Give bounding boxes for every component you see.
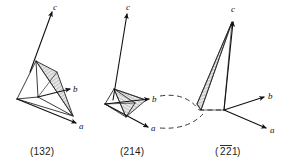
connector-dashed-b — [160, 95, 199, 110]
axis-label-b-221bar: b — [268, 91, 273, 101]
intercept-plane-221bar — [197, 22, 232, 110]
axis-c-214 — [113, 14, 127, 100]
panel-214: c b a (214) — [105, 2, 157, 157]
caption-221bar: ( 2 2 1 ) — [215, 146, 241, 158]
cell-edge-221bar-a — [197, 22, 232, 104]
axis-b-221bar — [224, 97, 264, 110]
axis-label-c-132: c — [53, 2, 57, 12]
caption-214: (214) — [120, 146, 144, 157]
cell-edge-132-b — [36, 61, 38, 97]
axis-label-b-132: b — [73, 84, 78, 94]
axis-c-221bar — [224, 22, 233, 110]
cell-edge-132-a — [17, 61, 36, 99]
axis-c-132 — [30, 12, 52, 72]
axis-label-a-132: a — [79, 121, 84, 131]
axis-label-a-214: a — [151, 123, 156, 133]
cell-edge-132-g — [36, 61, 73, 116]
miller-index-diagram-figure: c b a (132) c b a (214) — [0, 0, 291, 167]
axis-label-c-221bar: c — [231, 4, 235, 14]
cell-edge-221bar-b — [201, 22, 232, 110]
axis-label-a-221bar: a — [270, 125, 275, 135]
cell-edge-214-a — [105, 89, 114, 104]
caption-221bar-suffix: ) — [237, 146, 241, 157]
connector-dashed-a — [160, 114, 203, 128]
axis-a-221bar — [224, 110, 266, 128]
axis-label-b-214: b — [152, 94, 157, 104]
panel-221bar: c b a ( 2 2 1 ) — [197, 4, 275, 157]
panel-132: c b a (132) — [17, 2, 84, 157]
cell-edge-132-c — [17, 97, 38, 99]
caption-132: (132) — [30, 146, 54, 157]
caption-221bar-prefix: ( — [215, 146, 219, 157]
axis-label-c-214: c — [126, 2, 130, 12]
